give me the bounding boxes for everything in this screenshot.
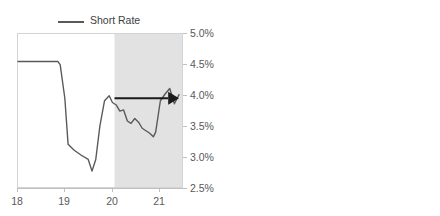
chart-panel-budget-balance: Est. Government Budget Surplus/Deficit (… (220, 0, 440, 216)
ytick-mark-left-0 (183, 33, 187, 34)
xtick-mark-left-3 (159, 188, 160, 192)
xtick-label-left-1: 19 (58, 195, 70, 207)
ytick-mark-left-2 (183, 95, 187, 96)
ytick-mark-left-1 (183, 64, 187, 65)
ytick-mark-left-5 (183, 188, 187, 189)
ytick-label-left-0: 5.0% (190, 28, 214, 38)
ytick-label-left-3: 3.5% (190, 121, 214, 131)
xtick-mark-left-0 (17, 188, 18, 192)
xtick-mark-left-1 (64, 188, 65, 192)
ytick-label-left-2: 4.0% (190, 90, 214, 100)
legend-left: Short Rate (58, 14, 140, 26)
ytick-mark-left-4 (183, 157, 187, 158)
legend-label-short-rate: Short Rate (90, 14, 140, 26)
ytick-label-left-4: 3.0% (190, 152, 214, 162)
ytick-label-left-5: 2.5% (190, 183, 214, 193)
plot-area-short-rate (17, 33, 183, 188)
chart-panel-short-rate: Short Rate 5.0% 4.5% 4.0% 3.5% 3.0% (0, 0, 220, 216)
xtick-label-left-3: 21 (153, 195, 165, 207)
ytick-mark-left-3 (183, 126, 187, 127)
xtick-mark-left-2 (112, 188, 113, 192)
xtick-label-left-0: 18 (11, 195, 23, 207)
legend-line-swatch-short-rate (58, 21, 84, 23)
ytick-label-left-1: 4.5% (190, 59, 214, 69)
xtick-label-left-2: 20 (106, 195, 118, 207)
forecast-shading-left (115, 34, 182, 187)
dual-chart-figure: Short Rate 5.0% 4.5% 4.0% 3.5% 3.0% (0, 0, 440, 216)
